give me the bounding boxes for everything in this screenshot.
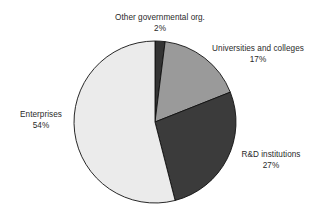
slice-label-text: R&D institutions — [241, 150, 300, 159]
slice-label-percent: 54% — [8, 121, 74, 132]
slice-label-percent: 2% — [96, 24, 224, 35]
slice-label-text: Enterprises — [20, 110, 62, 119]
slice-label-universities-and-colleges: Universities and colleges 17% — [196, 44, 320, 65]
slice-label-percent: 27% — [222, 161, 320, 172]
slice-label-enterprises: Enterprises 54% — [8, 110, 74, 131]
slice-label-other-governmental-org: Other governmental org. 2% — [96, 13, 224, 34]
slice-label-text: Universities and colleges — [212, 44, 304, 53]
slice-label-percent: 17% — [196, 55, 320, 66]
pie-slices — [74, 41, 236, 203]
slice-label-rnd-institutions: R&D institutions 27% — [222, 150, 320, 171]
pie-chart: Other governmental org. 2% Universities … — [0, 0, 324, 222]
slice-label-text: Other governmental org. — [115, 13, 205, 22]
